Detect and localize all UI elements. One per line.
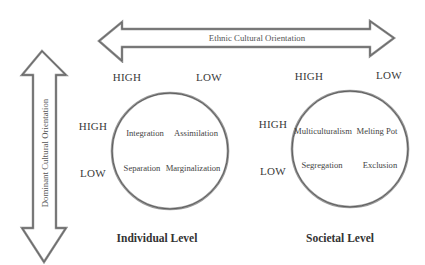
- ethnic-orientation-label: Ethnic Cultural Orientation: [209, 33, 305, 43]
- cell-marginalization: Marginalization: [166, 163, 221, 173]
- dominant-orientation-label: Dominant Cultural Orientation: [40, 99, 50, 207]
- individual-level-circle: [112, 93, 228, 209]
- row-label-high: HIGH: [259, 119, 288, 129]
- row-label-low: LOW: [80, 168, 106, 178]
- column-label-low: LOW: [196, 72, 222, 82]
- column-label-high: HIGH: [295, 71, 324, 81]
- cell-integration: Integration: [126, 128, 164, 138]
- cell-segregation: Segregation: [301, 160, 342, 170]
- cell-separation: Separation: [124, 163, 161, 173]
- column-label-low: LOW: [376, 70, 402, 80]
- acculturation-diagram: Ethnic Cultural Orientation Dominant Cul…: [0, 0, 425, 265]
- cell-exclusion: Exclusion: [363, 160, 397, 170]
- column-label-high: HIGH: [113, 72, 142, 82]
- row-label-high: HIGH: [79, 121, 108, 131]
- societal-level-title: Societal Level: [306, 233, 374, 243]
- cell-assimilation: Assimilation: [174, 128, 218, 138]
- cell-melting-pot: Melting Pot: [357, 126, 398, 136]
- row-label-low: LOW: [260, 166, 286, 176]
- individual-level-title: Individual Level: [117, 233, 198, 243]
- cell-multiculturalism: Multiculturalism: [294, 126, 352, 136]
- societal-level-circle: [292, 91, 408, 207]
